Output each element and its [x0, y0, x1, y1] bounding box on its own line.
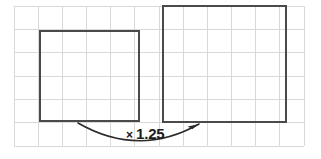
scale-factor-value: 1.25 [136, 125, 164, 142]
multiplication-sign-icon: × [126, 128, 136, 142]
scale-factor-label: ×1.25 [126, 126, 165, 143]
scale-factor-figure: ×1.25 [0, 0, 321, 159]
